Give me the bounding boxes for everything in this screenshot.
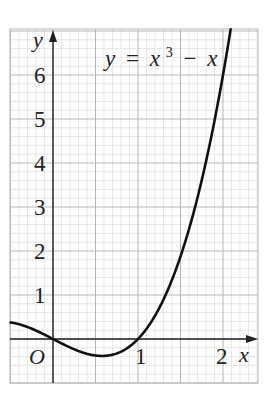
y-tick-label: 2: [34, 239, 46, 264]
equation-label: y = x 3 − x: [103, 37, 218, 71]
svg-text:y = x 3: y = x 3 − x: [103, 37, 218, 71]
x-axis-label: x: [238, 342, 249, 367]
equation-term1: x: [149, 46, 161, 71]
y-tick-label: 4: [34, 151, 46, 176]
y-axis-label: y: [31, 27, 43, 52]
y-tick-label: 3: [34, 195, 46, 220]
y-tick-label: 1: [34, 283, 46, 308]
x-tick-label: 2: [216, 344, 228, 369]
equation-lhs: y: [103, 46, 116, 71]
cubic-function-graph: y x O 123456 12 y = x 3 − x: [0, 0, 276, 403]
equation-term2: x: [206, 46, 218, 71]
equation-equals: =: [126, 46, 139, 71]
y-tick-label: 6: [34, 63, 46, 88]
y-axis-arrow-icon: [49, 30, 57, 42]
x-tick-label: 1: [135, 344, 147, 369]
equation-minus: −: [183, 46, 196, 71]
equation-exponent: 3: [166, 45, 173, 60]
y-tick-label: 5: [34, 107, 46, 132]
origin-label: O: [29, 344, 45, 369]
